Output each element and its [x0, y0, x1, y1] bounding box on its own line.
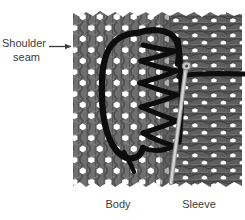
callout-label-line1: Shoulder	[2, 37, 46, 49]
diagram-canvas: Shoulder seam Body Sleeve	[0, 0, 245, 220]
thread-tail	[179, 73, 245, 76]
panel-label-body: Body	[105, 198, 131, 210]
panel-label-sleeve: Sleeve	[182, 198, 216, 210]
shoulder-seam-callout: Shoulder seam	[2, 37, 71, 63]
fabric-swatch	[70, 8, 245, 190]
callout-label-line2: seam	[13, 51, 40, 63]
shoulder-seam-diagram: Shoulder seam Body Sleeve	[0, 0, 245, 220]
needle-eye-hole	[185, 64, 188, 67]
